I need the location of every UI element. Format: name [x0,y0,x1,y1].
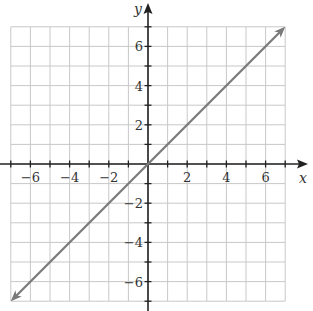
y-tick-label: 4 [135,79,143,94]
y-tick-label: −4 [124,235,143,250]
x-axis-label: x [299,170,307,186]
coordinate-plane: −6−4−2246−6−4−2246 x y [0,0,313,311]
y-tick-label: −6 [124,275,143,290]
y-tick-label: 6 [135,39,143,54]
x-tick-label: −2 [99,170,118,185]
x-tick-label: 6 [261,170,269,185]
x-tick-label: 4 [222,170,230,185]
x-tick-label: −4 [60,170,79,185]
y-axis-label: y [133,1,143,17]
y-tick-label: 2 [135,118,143,133]
x-tick-label: −6 [21,170,40,185]
y-tick-label: −2 [124,196,143,211]
x-tick-label: 2 [183,170,191,185]
